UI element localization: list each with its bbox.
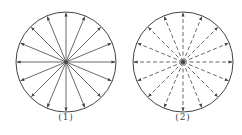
field-ray-arrow — [183, 62, 228, 81]
field-ray-arrow — [66, 27, 101, 62]
field-ray-arrow — [183, 43, 228, 62]
figure-1-solid-rays — [16, 12, 116, 112]
field-ray-arrow — [183, 17, 202, 62]
figure-1-label: (1) — [46, 112, 86, 122]
field-ray-arrow — [183, 62, 218, 97]
field-ray-arrow — [164, 62, 183, 107]
figure-2-dashed-rays — [133, 12, 233, 112]
field-ray-arrow — [66, 62, 101, 97]
field-ray-arrow — [138, 62, 183, 81]
field-ray-arrow — [148, 27, 183, 62]
field-ray-arrow — [31, 62, 66, 97]
center-point — [64, 60, 67, 63]
field-ray-arrow — [138, 43, 183, 62]
center-point — [181, 60, 184, 63]
field-ray-arrow — [148, 62, 183, 97]
field-line-diagrams — [0, 0, 242, 135]
field-ray-arrow — [31, 27, 66, 62]
field-ray-arrow — [164, 17, 183, 62]
figure-2-label: (2) — [163, 112, 203, 122]
field-ray-arrow — [183, 27, 218, 62]
field-ray-arrow — [183, 62, 202, 107]
